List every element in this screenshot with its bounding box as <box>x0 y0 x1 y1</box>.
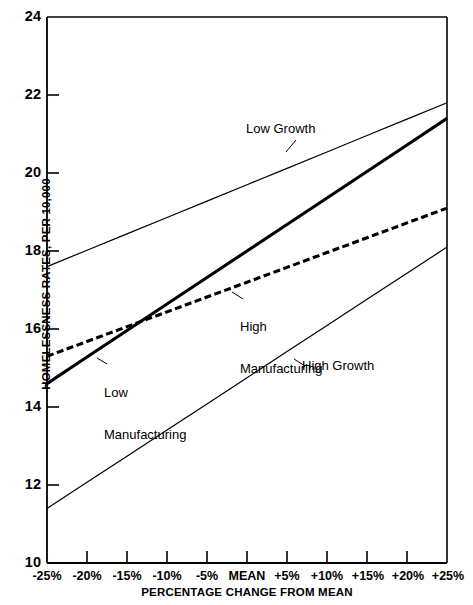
y-tick-20: 20 <box>7 165 41 180</box>
series-label-high-manufacturing-line1: High <box>240 320 322 334</box>
series-label-high-growth: High Growth <box>302 359 374 373</box>
y-tick-10: 10 <box>7 555 41 570</box>
y-axis-title: HOMELESSNESS RATES, PER 10,000 <box>40 134 52 434</box>
y-tick-18: 18 <box>7 243 41 258</box>
x-tick-neg15: -15% <box>107 570 147 583</box>
series-label-low-manufacturing-line1: Low <box>104 386 186 400</box>
chart-canvas <box>0 0 473 605</box>
y-tick-12: 12 <box>7 477 41 492</box>
series-label-low-manufacturing-line2: Manufacturing <box>104 428 186 442</box>
series-label-high-manufacturing: High Manufacturing <box>240 292 322 404</box>
x-axis-title: PERCENTAGE CHANGE FROM MEAN <box>47 586 447 598</box>
x-tick-neg25: -25% <box>27 570 67 583</box>
x-tick-mean: MEAN <box>222 570 272 583</box>
y-tick-14: 14 <box>7 399 41 414</box>
y-tick-24: 24 <box>7 9 41 24</box>
x-tick-pos25: +25% <box>424 570 472 583</box>
x-tick-neg5: -5% <box>189 570 225 583</box>
x-tick-neg20: -20% <box>67 570 107 583</box>
chart-container: 24 22 20 18 16 14 12 10 -25% -20% -15% -… <box>0 0 473 605</box>
leader-low-growth <box>286 140 296 152</box>
series-label-low-growth: Low Growth <box>246 122 315 136</box>
y-axis-tick-labels: 24 22 20 18 16 14 12 10 <box>0 0 41 605</box>
y-tick-16: 16 <box>7 321 41 336</box>
series-label-low-manufacturing: Low Manufacturing <box>104 358 186 470</box>
x-tick-neg10: -10% <box>147 570 187 583</box>
y-tick-22: 22 <box>7 87 41 102</box>
x-axis-ticks <box>87 551 407 563</box>
x-tick-pos5: +5% <box>266 570 308 583</box>
plot-frame <box>47 17 447 563</box>
